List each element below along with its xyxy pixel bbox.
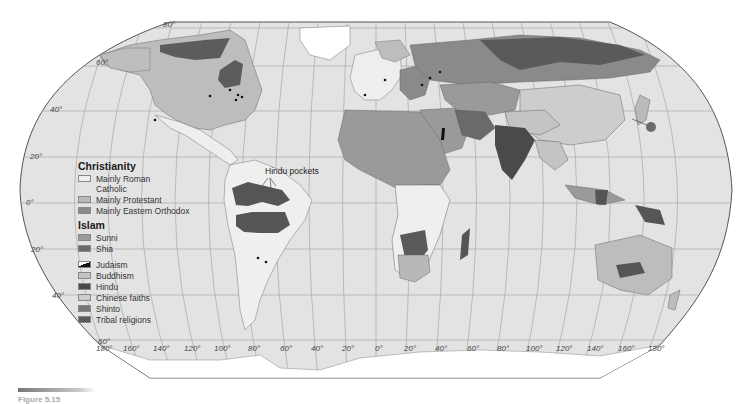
legend-item-tribal-religions: Tribal religions [78, 315, 238, 325]
legend-item-shia: Shia [78, 244, 238, 254]
lat-label-40s: 40° [52, 291, 64, 300]
lon-label-120w: 120° [184, 344, 201, 353]
lon-label-60w: 60° [280, 344, 292, 353]
legend-label-line1: Mainly Roman [96, 174, 150, 184]
swatch-protestant [78, 196, 91, 203]
swatch-judaism [78, 261, 91, 268]
lon-label-20w: 20° [342, 344, 354, 353]
lon-label-120e: 120° [556, 344, 573, 353]
legend-label-shia: Shia [96, 244, 113, 254]
legend-label-roman-catholic: Mainly Roman Catholic [96, 174, 150, 194]
legend-heading-islam: Islam [78, 219, 238, 231]
lon-label-160e: 160° [618, 344, 635, 353]
legend-item-protestant: Mainly Protestant [78, 195, 238, 205]
lon-label-140w: 140° [153, 344, 170, 353]
swatch-shinto [78, 305, 91, 312]
legend-item-hindu: Hindu [78, 282, 238, 292]
legend-label-line2: Catholic [96, 184, 127, 194]
lon-label-20e: 20° [404, 344, 416, 353]
lat-label-80n: 80° [163, 20, 175, 29]
lon-label-160w: 160° [123, 344, 140, 353]
swatch-sunni [78, 234, 91, 241]
lon-label-40w: 40° [311, 344, 323, 353]
hindu-pockets-annotation: Hindu pockets [265, 166, 319, 176]
legend-label-chinese-faiths: Chinese faiths [96, 293, 150, 303]
legend-label-judaism: Judaism [96, 260, 128, 270]
lon-label-100w: 100° [214, 344, 231, 353]
swatch-tribal-religions [78, 316, 91, 323]
lat-label-20s: 20° [31, 245, 43, 254]
legend-item-eastern-orthodox: Mainly Eastern Orthodox [78, 206, 238, 216]
legend-item-judaism: Judaism [78, 260, 238, 270]
lon-label-60e: 60° [467, 344, 479, 353]
legend-item-roman-catholic: Mainly Roman Catholic [78, 174, 238, 194]
swatch-chinese-faiths [78, 294, 91, 301]
lon-label-80w: 80° [248, 344, 260, 353]
legend-label-shinto: Shinto [96, 304, 120, 314]
legend-item-shinto: Shinto [78, 304, 238, 314]
legend-label-protestant: Mainly Protestant [96, 195, 162, 205]
lat-label-20n: 20° [30, 152, 42, 161]
lon-label-180w: 180° [96, 344, 113, 353]
legend-label-hindu: Hindu [96, 282, 118, 292]
legend-item-buddhism: Buddhism [78, 271, 238, 281]
legend-heading-christianity: Christianity [78, 160, 238, 172]
swatch-eastern-orthodox [78, 207, 91, 214]
lat-label-equator: 0° [26, 198, 34, 207]
map-legend: Christianity Mainly Roman Catholic Mainl… [78, 160, 238, 326]
swatch-roman-catholic [78, 175, 91, 182]
lon-label-140e: 140° [587, 344, 604, 353]
legend-label-tribal-religions: Tribal religions [96, 315, 151, 325]
shinto-marker [646, 122, 656, 132]
lon-label-0: 0° [375, 344, 383, 353]
region-amazon-tribal-south [236, 212, 290, 233]
region-borneo-tribal [595, 190, 608, 205]
lon-label-40e: 40° [435, 344, 447, 353]
legend-item-chinese-faiths: Chinese faiths [78, 293, 238, 303]
swatch-shia [78, 245, 91, 252]
legend-label-buddhism: Buddhism [96, 271, 134, 281]
lat-label-40n: 40° [50, 105, 62, 114]
swatch-hindu [78, 283, 91, 290]
lon-label-80e: 80° [497, 344, 509, 353]
lon-label-100e: 100° [526, 344, 543, 353]
caption-bar [18, 388, 96, 392]
lon-label-180e: 180° [648, 344, 665, 353]
figure-caption: Figure 5.15 [18, 395, 60, 404]
swatch-buddhism [78, 272, 91, 279]
legend-label-sunni: Sunni [96, 233, 118, 243]
lat-label-60n: 60° [96, 58, 108, 67]
legend-item-sunni: Sunni [78, 233, 238, 243]
legend-label-eastern-orthodox: Mainly Eastern Orthodox [96, 206, 190, 216]
